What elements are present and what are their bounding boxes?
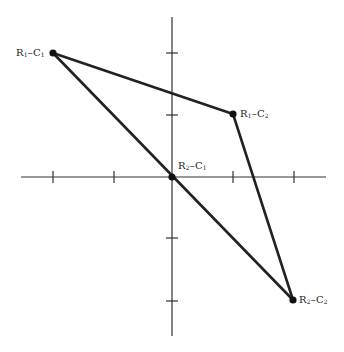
label-r1c1: R1–C1 [16,48,45,58]
edge-r1c1-r1c2 [53,53,233,114]
label-r1c2-col: C [257,108,265,119]
label-r2c2: R2–C2 [299,295,328,305]
coordinate-diagram [0,0,344,352]
point-r1c1 [49,49,56,56]
label-r1c1-row: R [16,47,24,58]
edge-r1c2-r2c2 [233,114,293,300]
label-r2c2-col: C [316,294,324,305]
label-r2c2-row: R [299,294,307,305]
point-r1c2 [229,110,236,117]
point-r2c1 [168,173,175,180]
label-r1c2: R1–C2 [240,109,269,119]
label-r1c2-col-sub: 2 [265,112,269,119]
label-r1c1-col-sub: 1 [41,51,45,58]
label-r2c1-row: R [178,160,186,171]
label-r1c1-col: C [33,47,41,58]
label-r2c2-col-sub: 2 [324,298,328,305]
label-r2c1-col: C [195,160,203,171]
label-r2c1: R2–C1 [178,161,207,171]
label-r1c2-row: R [240,108,248,119]
label-r2c1-col-sub: 1 [203,164,207,171]
point-r2c2 [289,296,296,303]
